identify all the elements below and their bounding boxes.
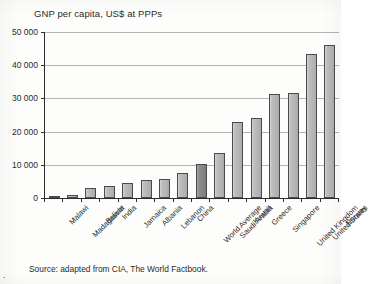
chart-title: GNP per capita, US$ at PPPs (34, 8, 162, 19)
bar-slot (100, 32, 118, 198)
bar[interactable] (306, 54, 317, 198)
bar[interactable] (196, 164, 207, 198)
x-axis-labels: MalawiMadagascarBoliviaIndiaJamaicaAlban… (44, 200, 338, 256)
bar[interactable] (324, 45, 335, 198)
x-axis-tick (338, 198, 339, 202)
bar-slot (302, 32, 320, 198)
bars-group (45, 32, 339, 198)
bar-slot (137, 32, 155, 198)
bar[interactable] (214, 153, 225, 198)
bar-slot (192, 32, 210, 198)
bar[interactable] (141, 180, 152, 198)
bar[interactable] (122, 183, 133, 198)
bar[interactable] (288, 93, 299, 198)
y-axis-tick-label: 30 000 (12, 94, 38, 103)
x-axis-category-label: Malawi (68, 204, 90, 226)
bar-slot (321, 32, 339, 198)
bar-slot (284, 32, 302, 198)
y-axis-tick-label: 20 000 (12, 127, 38, 136)
bar[interactable] (232, 122, 243, 198)
bar[interactable] (159, 179, 170, 198)
bar[interactable] (104, 186, 115, 198)
y-axis-tick-label: 10 000 (12, 161, 38, 170)
y-axis-tick-label: 0 (33, 194, 38, 203)
bar-slot (82, 32, 100, 198)
bar-slot (229, 32, 247, 198)
bar-slot (119, 32, 137, 198)
bar[interactable] (85, 188, 96, 198)
bar[interactable] (251, 118, 262, 198)
bar[interactable] (269, 94, 280, 198)
bar-slot (174, 32, 192, 198)
bar[interactable] (177, 173, 188, 198)
x-axis-category-label: Greece (270, 204, 293, 227)
y-axis-tick-label: 50 000 (12, 28, 38, 37)
bar-slot (45, 32, 63, 198)
bar-slot (155, 32, 173, 198)
caption-marker: . (3, 270, 5, 280)
source-text: Source: adapted from CIA, The World Fact… (29, 264, 208, 274)
x-axis-category-label: Singapore (292, 204, 322, 234)
bar-slot (247, 32, 265, 198)
bar-slot (63, 32, 81, 198)
bar-slot (210, 32, 228, 198)
plot-area: 010 00020 00030 00040 00050 000 (44, 32, 339, 199)
bar-slot (266, 32, 284, 198)
y-axis-tick-label: 40 000 (12, 61, 38, 70)
